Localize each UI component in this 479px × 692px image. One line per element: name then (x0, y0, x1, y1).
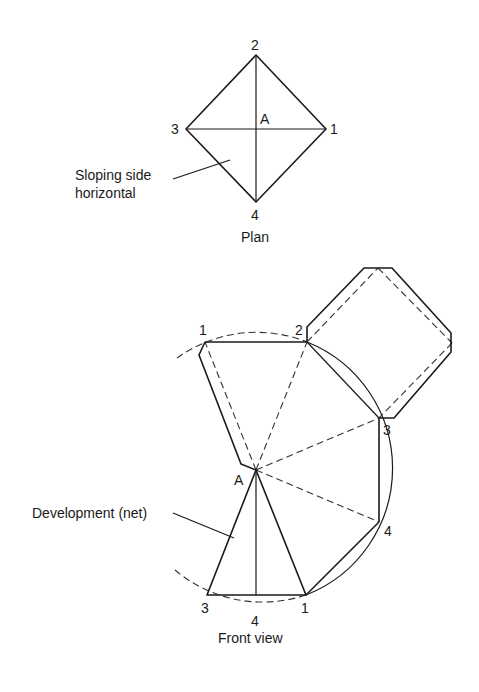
plan-callout-line1: Sloping side (75, 167, 151, 183)
net-callout-leader (173, 513, 234, 538)
net-label-top-2: 2 (295, 322, 303, 338)
net-label-bottom-3: 3 (201, 600, 209, 616)
net-label-right-3: 3 (383, 422, 391, 438)
plan-label-3: 3 (171, 121, 179, 137)
construction-arc-bottom (175, 570, 306, 602)
plan-caption: Plan (241, 229, 269, 245)
net-callout-text: Development (net) (32, 505, 147, 521)
net-label-bottom-4: 4 (251, 613, 259, 629)
base-fold-2-top (307, 268, 378, 342)
base-fold-right-3 (379, 343, 452, 418)
plan-callout-line2: horizontal (75, 185, 136, 201)
glue-flap-left (199, 342, 256, 470)
fold-line-A-2 (256, 342, 307, 470)
plan-label-1: 1 (330, 121, 338, 137)
plan-label-2: 2 (251, 37, 259, 53)
net-label-top-1: 1 (199, 322, 207, 338)
net-edge-4-1 (306, 522, 379, 595)
fold-line-A-1 (205, 342, 256, 470)
development-net: 1 2 3 4 A 3 4 1 Development (net) Front … (32, 268, 452, 646)
net-edge-2-3 (307, 342, 379, 418)
base-fold-top-right (378, 268, 452, 343)
fold-line-A-3 (256, 418, 379, 470)
pyramid-development-diagram: 2 3 1 4 A Sloping side horizontal Plan (0, 0, 479, 692)
base-flap-outline (307, 268, 451, 418)
plan-label-4: 4 (251, 207, 259, 223)
construction-arc-top (177, 332, 307, 358)
front-view-caption: Front view (218, 630, 283, 646)
net-label-apex: A (234, 472, 244, 488)
plan-callout-leader (173, 160, 230, 179)
plan-label-apex: A (260, 111, 270, 127)
net-label-bottom-1: 1 (301, 600, 309, 616)
plan-view: 2 3 1 4 A Sloping side horizontal Plan (75, 37, 338, 245)
net-label-right-4: 4 (384, 523, 392, 539)
